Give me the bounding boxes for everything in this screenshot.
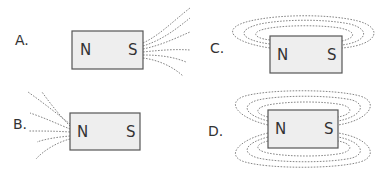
- north-pole-label: N: [275, 120, 286, 138]
- option-d: D. N S: [208, 91, 370, 168]
- north-pole-label: N: [80, 41, 91, 59]
- option-a: A. N S: [15, 8, 190, 76]
- south-pole-label: S: [324, 120, 334, 138]
- south-pole-label: S: [128, 41, 138, 59]
- option-c: C. N S: [210, 16, 374, 73]
- option-label: A.: [15, 32, 29, 48]
- south-pole-label: S: [126, 123, 136, 141]
- south-pole-label: S: [327, 46, 337, 64]
- field-lines: [28, 92, 70, 159]
- option-label: D.: [208, 123, 223, 139]
- option-b: B. N S: [13, 92, 140, 159]
- field-lines: [143, 8, 190, 76]
- option-label: B.: [13, 116, 27, 132]
- north-pole-label: N: [277, 46, 288, 64]
- option-label: C.: [210, 40, 224, 56]
- north-pole-label: N: [77, 123, 88, 141]
- magnet-field-diagram: A. N S B. N S C.: [0, 0, 382, 180]
